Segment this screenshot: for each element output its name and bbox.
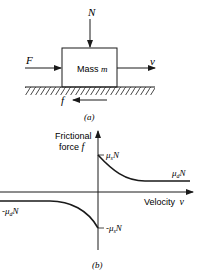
y-axis-label-line2: force f xyxy=(59,141,86,152)
friction-label: f xyxy=(61,94,66,106)
mass-label: Mass m xyxy=(77,64,108,74)
velocity-label: v xyxy=(150,55,155,67)
caption-a: (a) xyxy=(84,112,95,122)
applied-force-label: F xyxy=(25,54,33,66)
y-axis-label-line1: Frictional xyxy=(55,131,92,141)
friction-diagram: N Mass m F v f (a) Frictional force f Ve… xyxy=(0,0,201,279)
static-neg-label: -μsN xyxy=(106,223,123,234)
part-b-friction-graph: Frictional force f Velocity v μsN μdN -μ… xyxy=(0,131,193,270)
static-pos-label: μsN xyxy=(105,150,120,161)
part-a-free-body: N Mass m F v f (a) xyxy=(25,6,155,122)
dynamic-neg-label: -μdN xyxy=(2,206,20,217)
x-axis-label: Velocity v xyxy=(144,196,185,207)
normal-force-label: N xyxy=(87,6,96,18)
dynamic-pos-label: μdN xyxy=(171,168,187,179)
ground-hatching xyxy=(25,87,155,95)
caption-b: (b) xyxy=(92,260,103,270)
